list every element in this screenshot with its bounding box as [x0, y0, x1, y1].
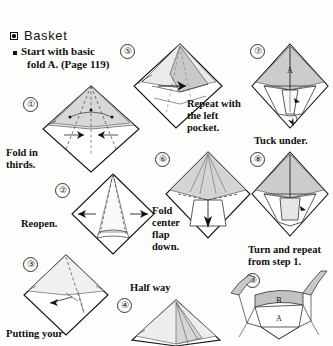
step-caption-6-line3: flap	[152, 229, 170, 241]
step-caption-8-line1: Turn and repeat	[248, 244, 321, 256]
step-caption-6-line2: center	[152, 217, 180, 229]
step-caption-1-line2: thirds.	[6, 159, 35, 171]
intro-line-2: fold A. (Page 119)	[27, 58, 110, 71]
step-caption-1-line1: Fold in	[6, 147, 38, 159]
step-number-1: ①	[23, 97, 38, 112]
step-caption-6-line1: Fold	[152, 205, 172, 217]
step-9-figure-label-a: A	[276, 314, 282, 323]
step-7-figure-label: A	[287, 66, 293, 75]
step-figure-9: B A	[225, 265, 333, 343]
small-square-bullet-icon	[13, 51, 17, 55]
step-figure-4	[128, 296, 224, 346]
step-figure-6	[160, 148, 256, 244]
step-caption-5-line3: pocket.	[187, 122, 219, 134]
step-9-figure-label-b: B	[276, 296, 281, 305]
page-title: Basket	[24, 28, 67, 43]
step-caption-7-line1: Tuck under.	[254, 135, 308, 147]
step-caption-6-line4: down.	[152, 241, 179, 253]
step-figure-3	[20, 251, 112, 339]
step-figure-7: A	[248, 40, 332, 132]
step-caption-2-line1: Reopen.	[21, 218, 57, 230]
step-caption-5-line1: Repeat with	[187, 98, 241, 110]
step-number-2: ②	[55, 183, 70, 198]
filled-square-bullet-icon	[10, 32, 18, 40]
step-figure-8	[248, 148, 332, 240]
intro-line-1: Start with basic	[21, 45, 95, 58]
step-figure-1	[40, 83, 142, 175]
step-caption-4-line1: Half way	[130, 282, 171, 294]
step-caption-3-line1: Putting your	[6, 328, 63, 340]
step-caption-5-line2: the left	[187, 110, 218, 122]
step-figure-2	[70, 172, 156, 256]
